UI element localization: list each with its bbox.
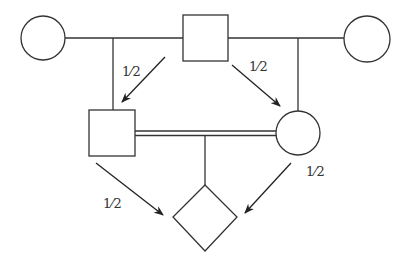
female-left-grandparent	[21, 16, 65, 60]
pedigree-diagram: 1⁄2 1⁄2 1⁄2 1⁄2	[0, 0, 410, 268]
male-father	[89, 110, 135, 156]
label-mother-to-offspring: 1⁄2	[306, 164, 325, 179]
female-right-grandparent	[344, 16, 390, 62]
offspring-diamond	[173, 185, 237, 251]
label-ancestor-to-mother: 1⁄2	[249, 59, 268, 74]
label-father-to-offspring: 1⁄2	[103, 196, 122, 211]
arrow-mother-to-offspring	[245, 163, 291, 213]
male-common-ancestor	[183, 15, 228, 61]
label-ancestor-to-father: 1⁄2	[122, 64, 141, 79]
female-mother	[276, 111, 320, 155]
